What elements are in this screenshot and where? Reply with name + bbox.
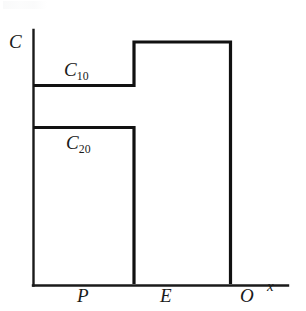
x-axis-label: x (267, 279, 274, 294)
c20-label-base: C (66, 132, 79, 153)
step-function-diagram (0, 0, 306, 311)
c10-label: C10 (64, 60, 89, 79)
figure-container: C C10 C20 P E O x (0, 0, 306, 311)
x-tick-label-o: O (240, 286, 254, 305)
c10-label-subscript: 10 (77, 70, 89, 83)
y-axis-label: C (9, 32, 22, 51)
x-tick-label-p: P (77, 286, 89, 305)
x-tick-label-e: E (160, 286, 172, 305)
c20-label-subscript: 20 (79, 143, 91, 156)
c20-label: C20 (66, 133, 91, 152)
c10-label-base: C (64, 59, 77, 80)
